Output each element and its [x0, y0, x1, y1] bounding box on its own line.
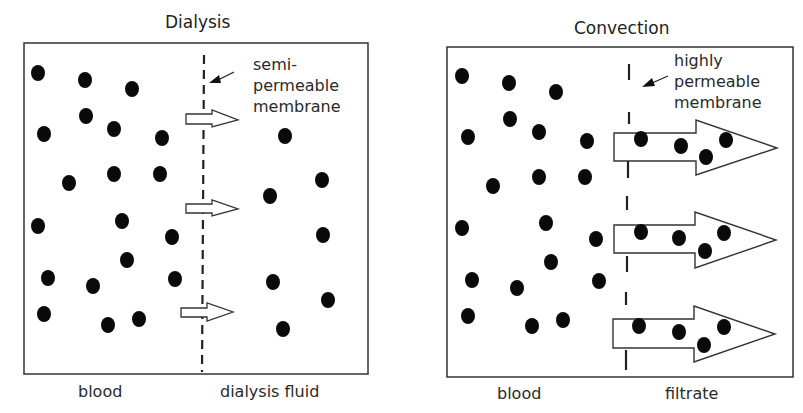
arrow-right-icon [186, 110, 238, 127]
big-arrow-right-icon [614, 212, 776, 268]
dialysis-arrows [181, 110, 238, 321]
arrow-right-icon [186, 200, 238, 216]
dialysis-fluid-particles [263, 128, 335, 337]
big-arrow-right-icon [614, 120, 777, 175]
dialysis-pointer-arrow-icon [209, 72, 234, 83]
arrow-right-icon [181, 303, 233, 321]
convection-pointer-arrow-icon [642, 76, 668, 87]
convection-blood-particles [455, 68, 606, 334]
diagram-canvas [0, 0, 803, 413]
big-arrow-right-icon [613, 306, 775, 362]
dialysis-blood-particles [31, 65, 182, 333]
